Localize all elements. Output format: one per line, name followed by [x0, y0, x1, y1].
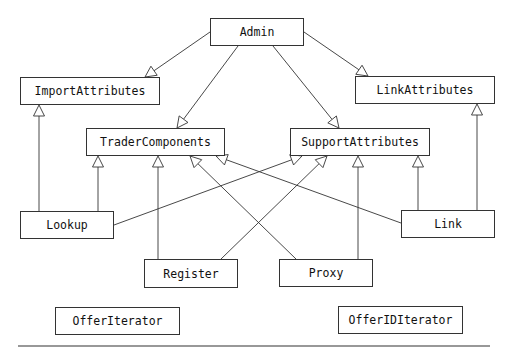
class-proxy[interactable]: Proxy	[279, 259, 373, 287]
inheritance-edge	[273, 46, 332, 119]
hollow-arrowhead-icon	[177, 116, 188, 128]
hollow-arrowhead-icon	[216, 155, 228, 165]
hollow-arrowhead-icon	[356, 65, 368, 76]
class-register[interactable]: Register	[144, 259, 238, 288]
class-offer-id-iterator[interactable]: OfferIDIterator	[338, 306, 463, 334]
class-label: LinkAttributes	[377, 83, 474, 97]
hollow-arrowhead-icon	[153, 156, 164, 167]
inheritance-edges	[0, 0, 514, 354]
class-label: TraderComponents	[100, 135, 211, 149]
class-admin[interactable]: Admin	[210, 18, 304, 46]
class-label: Lookup	[46, 218, 88, 232]
class-import-attributes[interactable]: ImportAttributes	[20, 77, 160, 105]
inheritance-edge	[184, 46, 238, 119]
class-lookup[interactable]: Lookup	[20, 211, 114, 239]
class-label: ImportAttributes	[35, 84, 146, 98]
class-label: OfferIDIterator	[349, 313, 453, 327]
class-trader-components[interactable]: TraderComponents	[86, 128, 225, 156]
class-link-attributes[interactable]: LinkAttributes	[355, 76, 495, 104]
class-label: Link	[434, 217, 462, 231]
class-support-attributes[interactable]: SupportAttributes	[290, 128, 430, 156]
inheritance-edge	[221, 164, 319, 259]
hollow-arrowhead-icon	[34, 105, 45, 116]
class-label: OfferIterator	[72, 314, 162, 328]
inheritance-edge	[304, 32, 359, 70]
class-label: Proxy	[309, 266, 344, 280]
class-diagram: Admin ImportAttributes LinkAttributes Tr…	[0, 0, 514, 354]
hollow-arrowhead-icon	[472, 104, 483, 115]
hollow-arrowhead-icon	[328, 116, 339, 128]
class-offer-iterator[interactable]: OfferIterator	[55, 307, 180, 335]
class-label: SupportAttributes	[301, 135, 419, 149]
hollow-arrowhead-icon	[413, 156, 424, 167]
class-link[interactable]: Link	[401, 210, 495, 238]
hollow-arrowhead-icon	[93, 156, 104, 167]
hollow-arrowhead-icon	[145, 66, 157, 77]
class-label: Admin	[240, 25, 275, 39]
hollow-arrowhead-icon	[290, 155, 302, 165]
inheritance-edge	[154, 32, 210, 71]
inheritance-edge	[198, 164, 296, 259]
inheritance-edge	[114, 160, 292, 225]
hollow-arrowhead-icon	[353, 156, 364, 167]
class-label: Register	[163, 267, 218, 281]
